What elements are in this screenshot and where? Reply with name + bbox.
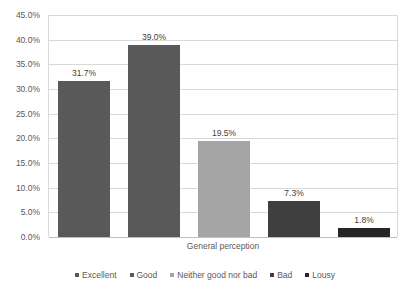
legend-label: Bad (277, 270, 292, 280)
legend-label: Excellent (82, 270, 117, 280)
legend-swatch-icon (75, 273, 79, 277)
y-axis-tick-labels: 0.0%5.0%10.0%15.0%20.0%25.0%30.0%35.0%40… (0, 15, 44, 237)
legend-swatch-icon (170, 273, 174, 277)
gridline (49, 237, 397, 238)
y-axis-tick-label: 45.0% (16, 11, 40, 20)
y-axis-tick-label: 10.0% (16, 183, 40, 192)
y-axis-tick-label: 5.0% (21, 208, 40, 217)
bar-data-label: 7.3% (284, 188, 303, 198)
legend-label: Neither good nor bad (177, 270, 257, 280)
y-axis-tick-label: 40.0% (16, 35, 40, 44)
bar-chart: 0.0%5.0%10.0%15.0%20.0%25.0%30.0%35.0%40… (0, 0, 410, 296)
y-axis-tick-label: 25.0% (16, 109, 40, 118)
legend-swatch-icon (130, 273, 134, 277)
plot-area: 31.7%39.0%19.5%7.3%1.8% (48, 15, 398, 237)
bar-data-label: 19.5% (212, 128, 236, 138)
y-axis-tick-label: 35.0% (16, 60, 40, 69)
bar-data-label: 1.8% (354, 215, 373, 225)
legend-label: Good (137, 270, 158, 280)
legend-swatch-icon (305, 273, 309, 277)
bar (338, 228, 390, 237)
bar (58, 81, 110, 237)
legend-label: Lousy (312, 270, 335, 280)
bar (198, 141, 250, 237)
bar-data-label: 31.7% (72, 68, 96, 78)
y-axis-tick-label: 20.0% (16, 134, 40, 143)
bar (128, 45, 180, 237)
legend-item[interactable]: Bad (270, 270, 292, 280)
y-axis-tick-label: 0.0% (21, 233, 40, 242)
legend-item[interactable]: Lousy (305, 270, 335, 280)
bar-series: 31.7%39.0%19.5%7.3%1.8% (49, 15, 397, 237)
legend-item[interactable]: Excellent (75, 270, 117, 280)
legend-item[interactable]: Good (130, 270, 158, 280)
legend-item[interactable]: Neither good nor bad (170, 270, 257, 280)
bar (268, 201, 320, 237)
y-axis-tick-label: 30.0% (16, 85, 40, 94)
legend-swatch-icon (270, 273, 274, 277)
chart-legend: ExcellentGoodNeither good nor badBadLous… (0, 270, 410, 280)
y-axis-tick-label: 15.0% (16, 159, 40, 168)
bar-data-label: 39.0% (142, 32, 166, 42)
x-axis-title: General perception (48, 241, 398, 251)
